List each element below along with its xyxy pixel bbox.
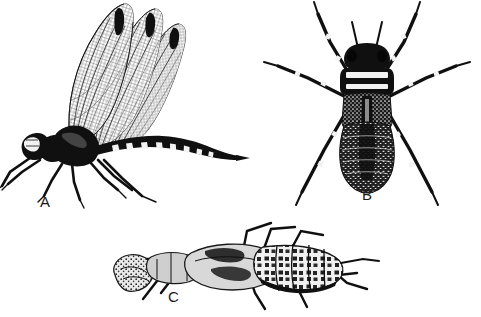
pronotum [340,68,394,95]
panel-label-c: C [168,288,179,305]
figure-panel-c [95,213,385,317]
illustration-plate: A [0,0,481,317]
panel-label-b: B [362,186,373,203]
figure-panel-b [252,0,481,215]
panel-label-a: A [40,193,51,210]
abdomen [254,244,343,293]
cerci [341,259,379,263]
abdomen [340,122,395,193]
figure-panel-a [0,0,250,215]
head [344,43,390,71]
